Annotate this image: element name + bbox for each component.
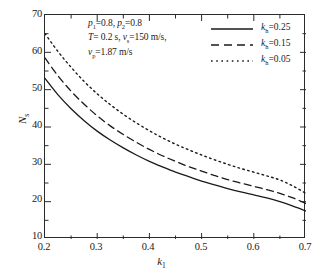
legend-label-kh-025: kh=0.25 <box>261 22 290 36</box>
annotation-line-2: T= 0.2 s, vs=150 m/s, <box>88 32 166 46</box>
x-tick-02: 0.2 <box>26 242 62 252</box>
legend-key-dotted-icon <box>210 56 254 66</box>
y-tick-20: 20 <box>8 194 42 204</box>
plot-area: p1=0.8, p2=0.8 T= 0.2 s, vs=150 m/s, vp=… <box>44 14 305 238</box>
figure-container: 70 60 50 40 30 20 10 Ns <box>0 0 323 280</box>
x-axis-tick-labels: 0.2 0.3 0.4 0.5 0.6 0.7 <box>0 242 323 256</box>
y-axis-symbol: N <box>16 117 28 124</box>
parameter-annotation: p1=0.8, p2=0.8 T= 0.2 s, vs=150 m/s, vp=… <box>88 18 166 61</box>
legend-item-kh-005: kh=0.05 <box>210 53 290 69</box>
legend-item-kh-025: kh=0.25 <box>210 21 290 37</box>
y-axis-subscript: s <box>22 114 31 117</box>
y-tick-30: 30 <box>8 157 42 167</box>
annotation-line-1: p1=0.8, p2=0.8 <box>88 18 166 32</box>
legend-key-solid-icon <box>210 24 254 34</box>
x-tick-07: 0.7 <box>287 242 323 252</box>
x-tick-03: 0.3 <box>78 242 114 252</box>
y-axis-tick-labels: 70 60 50 40 30 20 10 <box>2 0 42 280</box>
x-tick-06: 0.6 <box>235 242 271 252</box>
x-tick-04: 0.4 <box>130 242 166 252</box>
y-tick-60: 60 <box>8 46 42 56</box>
y-tick-70: 70 <box>8 9 42 19</box>
annotation-line-3: vp=1.87 m/s <box>88 47 166 61</box>
legend: kh=0.25 kh=0.15 kh=0.05 <box>210 21 290 69</box>
legend-key-dashed-icon <box>210 40 254 50</box>
y-axis-title: Ns <box>2 100 17 110</box>
series-line-kh-015 <box>45 58 306 204</box>
x-axis-subscript: 1 <box>162 261 166 270</box>
legend-label-kh-005: kh=0.05 <box>261 54 290 68</box>
series-line-kh-025 <box>45 78 306 211</box>
x-tick-05: 0.5 <box>183 242 219 252</box>
legend-item-kh-015: kh=0.15 <box>210 37 290 53</box>
x-axis-title: k1 <box>0 255 323 270</box>
legend-label-kh-015: kh=0.15 <box>261 38 290 52</box>
y-tick-50: 50 <box>8 83 42 93</box>
y-tick-10: 10 <box>8 231 42 241</box>
